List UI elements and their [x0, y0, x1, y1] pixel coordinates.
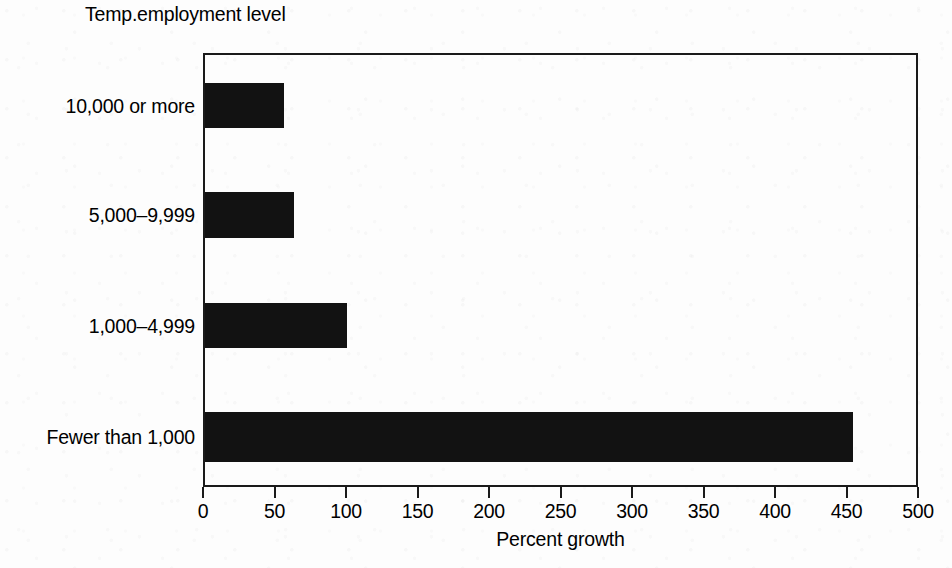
y-axis-label: 1,000–4,999 [0, 314, 195, 337]
y-axis-label: 5,000–9,999 [0, 204, 195, 227]
x-tick-mark [631, 487, 633, 498]
bar [205, 412, 853, 462]
x-tick-mark [560, 487, 562, 498]
x-tick-mark [345, 487, 347, 498]
x-tick-mark [417, 487, 419, 498]
bar [205, 303, 347, 348]
x-tick-label: 300 [616, 500, 648, 523]
x-tick-mark [703, 487, 705, 498]
x-tick-mark [917, 487, 919, 498]
x-tick-label: 450 [831, 500, 863, 523]
y-axis-category-labels: 10,000 or more5,000–9,9991,000–4,999Fewe… [0, 0, 195, 568]
x-tick-label: 400 [759, 500, 791, 523]
bar [205, 192, 294, 238]
y-axis-label: 10,000 or more [0, 94, 195, 117]
x-tick-label: 200 [473, 500, 505, 523]
chart-figure: Temp.employment level 10,000 or more5,00… [0, 0, 952, 568]
x-tick-mark [202, 487, 204, 498]
plot-area [203, 53, 918, 487]
x-tick-label: 500 [902, 500, 934, 523]
x-tick-mark [274, 487, 276, 498]
x-tick-label: 50 [264, 500, 285, 523]
x-axis-tick-labels: 050100150200250300350400450500 [203, 500, 918, 528]
x-axis-title: Percent growth [203, 528, 918, 551]
x-tick-mark [846, 487, 848, 498]
x-tick-label: 0 [198, 500, 209, 523]
x-tick-label: 250 [545, 500, 577, 523]
x-tick-label: 100 [330, 500, 362, 523]
bar [205, 83, 284, 128]
x-axis-tick-marks [203, 487, 918, 499]
y-axis-label: Fewer than 1,000 [0, 426, 195, 449]
x-tick-mark [488, 487, 490, 498]
x-tick-mark [774, 487, 776, 498]
x-tick-label: 150 [402, 500, 434, 523]
x-tick-label: 350 [688, 500, 720, 523]
